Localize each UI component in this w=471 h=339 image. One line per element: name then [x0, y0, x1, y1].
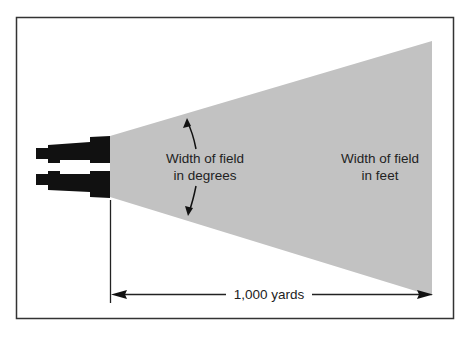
angle-label: Width of field in degrees: [140, 150, 270, 184]
angle-label-line1: Width of field: [140, 150, 270, 167]
distance-label: 1,000 yards: [226, 286, 312, 303]
angle-label-line2: in degrees: [140, 167, 270, 184]
binocular-field-of-view-diagram: Width of field in degrees Width of field…: [0, 0, 471, 339]
feet-label: Width of field in feet: [320, 150, 440, 184]
feet-label-line2: in feet: [320, 167, 440, 184]
binoculars-icon: [36, 136, 110, 198]
arrow-left-icon: [111, 290, 127, 299]
feet-label-line1: Width of field: [320, 150, 440, 167]
